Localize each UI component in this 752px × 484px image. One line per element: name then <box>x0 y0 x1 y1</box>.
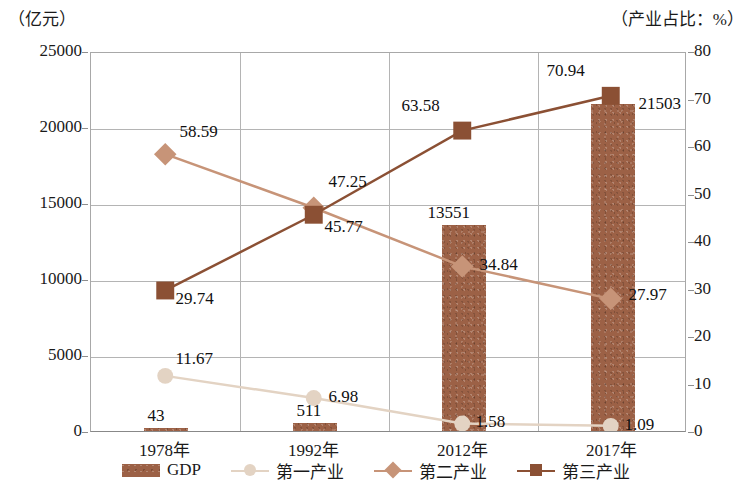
legend-item[interactable]: 第二产业 <box>374 458 487 483</box>
line-data-label: 58.59 <box>180 122 218 142</box>
right-axis-tick-label: 80 <box>694 41 711 61</box>
chart-legend: GDP第一产业第二产业第三产业 <box>0 456 752 484</box>
line-data-label: 11.67 <box>176 349 214 369</box>
right-axis-tick-label: 50 <box>694 184 711 204</box>
right-axis-tickmark <box>688 385 694 386</box>
right-axis-tick-label: 60 <box>694 136 711 156</box>
left-axis-ticks: 0500010000150002000025000 <box>0 52 82 432</box>
left-axis-tick-label: 25000 <box>40 41 83 61</box>
line-data-label: 29.74 <box>176 289 214 309</box>
legend-label: 第二产业 <box>419 458 487 483</box>
line-data-label: 70.94 <box>547 61 585 81</box>
legend-item[interactable]: 第三产业 <box>517 458 630 483</box>
right-axis-tickmark <box>688 100 694 101</box>
legend-item[interactable]: 第一产业 <box>231 458 344 483</box>
legend-item[interactable]: GDP <box>122 460 201 480</box>
legend-label: 第一产业 <box>276 458 344 483</box>
line-data-label: 27.97 <box>629 285 667 305</box>
right-axis-tickmark <box>688 290 694 291</box>
legend-line-swatch <box>231 464 269 477</box>
legend-line-swatch <box>374 464 412 477</box>
line-data-label: 63.58 <box>402 96 440 116</box>
left-axis-tick-label: 20000 <box>40 117 83 137</box>
legend-circle-marker-icon <box>244 464 256 476</box>
legend-label: GDP <box>167 460 201 480</box>
legend-line-swatch <box>517 464 555 477</box>
right-axis-ticks: 01020304050607080 <box>694 52 750 432</box>
right-axis-tickmark <box>688 52 694 53</box>
right-axis-tick-label: 40 <box>694 231 711 251</box>
right-axis-unit-label: （产业占比：%） <box>611 5 744 30</box>
chart-container: （亿元） （产业占比：%） 0500010000150002000025000 … <box>0 0 752 484</box>
line-data-label: 1.09 <box>625 415 655 435</box>
line-data-label: 6.98 <box>329 387 359 407</box>
left-axis-unit-label: （亿元） <box>8 5 76 30</box>
right-axis-tick-label: 30 <box>694 279 711 299</box>
left-axis-tick-label: 15000 <box>40 193 83 213</box>
line-data-label: 34.84 <box>480 255 518 275</box>
left-axis-tick-label: 10000 <box>40 269 83 289</box>
line-data-label: 1.58 <box>476 412 506 432</box>
line-data-labels: 11.676.981.581.0958.5947.2534.8427.9729.… <box>91 53 685 431</box>
left-axis-tickmark <box>82 128 88 129</box>
left-axis-tickmark <box>82 432 88 433</box>
right-axis-tickmark <box>688 242 694 243</box>
line-data-label: 45.77 <box>325 217 363 237</box>
right-axis-tickmark <box>688 337 694 338</box>
left-axis-tick-label: 0 <box>74 421 83 441</box>
line-data-label: 47.25 <box>329 172 367 192</box>
right-axis-tickmark <box>688 195 694 196</box>
right-axis-tickmark <box>688 147 694 148</box>
legend-diamond-marker-icon <box>385 461 402 478</box>
right-axis-tick-label: 20 <box>694 326 711 346</box>
left-axis-tick-label: 5000 <box>48 345 82 365</box>
legend-bar-swatch-icon <box>122 464 160 477</box>
right-axis-tick-label: 0 <box>694 421 703 441</box>
right-axis-tick-label: 70 <box>694 89 711 109</box>
left-axis-tickmark <box>82 52 88 53</box>
right-axis-tick-label: 10 <box>694 374 711 394</box>
left-axis-tickmark <box>82 356 88 357</box>
plot-area: 435111355121503 11.676.981.581.0958.5947… <box>90 52 686 432</box>
left-axis-tickmark <box>82 204 88 205</box>
left-axis-tickmark <box>82 280 88 281</box>
legend-label: 第三产业 <box>562 458 630 483</box>
legend-square-marker-icon <box>530 464 542 476</box>
right-axis-tickmark <box>688 432 694 433</box>
